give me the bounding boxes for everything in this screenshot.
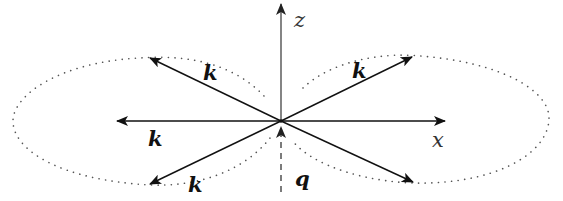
z-axis-label: z <box>293 8 306 32</box>
x-axis-label: x <box>432 128 444 152</box>
right-lobe <box>292 55 549 183</box>
origin-point <box>279 119 283 123</box>
vector-k-left-label: k <box>148 126 163 151</box>
momentum-diagram: z x k k k k q <box>0 0 563 201</box>
vector-k-upper-right <box>281 57 412 121</box>
vector-k-lower-left-label: k <box>188 172 203 197</box>
vector-k-upper-left-label: k <box>203 60 218 85</box>
vector-k-upper-right-label: k <box>352 58 367 83</box>
vector-q-label: q <box>295 166 310 191</box>
vector-k-lower-left <box>150 121 281 184</box>
